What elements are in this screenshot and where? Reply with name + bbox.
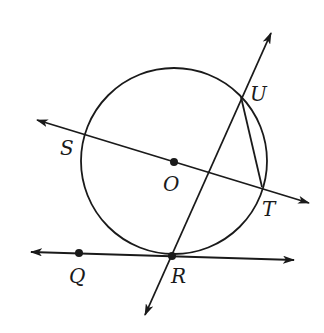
label-R: R [170, 264, 186, 288]
label-O: O [163, 172, 179, 196]
geometry-diagram: S O T U R Q [0, 0, 324, 333]
point-R-dot [168, 252, 176, 260]
label-S: S [60, 136, 74, 160]
label-Q: Q [69, 264, 85, 288]
label-U: U [250, 82, 268, 106]
point-O-dot [170, 158, 178, 166]
point-Q-dot [75, 249, 83, 257]
label-T: T [262, 197, 277, 221]
